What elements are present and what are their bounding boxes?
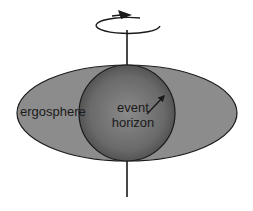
- event-horizon-label-line2: horizon: [112, 115, 155, 130]
- black-hole-diagram: ergosphere event horizon: [0, 0, 253, 211]
- rotation-arrow-icon: [96, 10, 160, 33]
- event-horizon-label-line1: event: [117, 100, 149, 115]
- ergosphere-label: ergosphere: [20, 104, 86, 119]
